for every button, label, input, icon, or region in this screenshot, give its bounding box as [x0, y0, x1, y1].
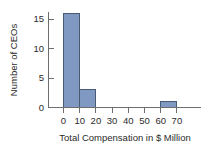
- x-axis-ticks: 010203040506070: [61, 108, 182, 126]
- bars-group: [64, 14, 177, 108]
- y-axis-title: Number of CEOs: [8, 24, 19, 97]
- bar-0-10: [64, 14, 80, 108]
- histogram-chart: 051015 010203040506070 Number of CEOs To…: [0, 0, 210, 151]
- x-axis-title: Total Compensation in $ Million: [59, 132, 190, 143]
- bar-60-70: [161, 102, 177, 108]
- y-axis-ticks: 051015: [33, 13, 54, 112]
- x-tick-label: 10: [74, 115, 85, 126]
- x-tick-label: 50: [139, 115, 150, 126]
- x-tick-label: 70: [172, 115, 183, 126]
- y-tick-label: 15: [33, 13, 44, 24]
- x-tick-label: 30: [107, 115, 118, 126]
- x-tick-label: 0: [61, 115, 66, 126]
- y-tick-label: 10: [33, 43, 44, 54]
- y-tick-label: 5: [39, 72, 44, 83]
- x-tick-label: 20: [91, 115, 102, 126]
- y-tick-label: 0: [39, 102, 44, 113]
- chart-canvas: 051015 010203040506070 Number of CEOs To…: [0, 0, 210, 151]
- bar-10-20: [80, 90, 96, 108]
- x-tick-label: 40: [123, 115, 134, 126]
- x-tick-label: 60: [155, 115, 166, 126]
